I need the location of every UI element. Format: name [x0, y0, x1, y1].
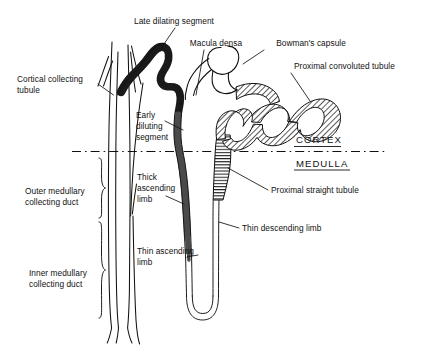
nephron-diagram: Late dilating segment Macula densa Bowma… — [0, 0, 429, 346]
label-outer-medullary-collecting-duct-line1: Outer medullary — [25, 186, 86, 196]
label-bowmans-capsule: Bowman's capsule — [276, 38, 346, 48]
label-proximal-straight-tubule: Proximal straight tubule — [271, 185, 359, 195]
label-thin-descending-limb: Thin descending limb — [242, 223, 322, 233]
macula-densa-point — [180, 103, 182, 105]
label-thick-ascending-limb-line1: Thick — [137, 172, 158, 182]
label-macula-densa: Macula densa — [190, 38, 243, 48]
label-cortical-collecting-tubule-line1: Cortical collecting — [17, 74, 83, 84]
label-thick-ascending-limb-line3: limb — [137, 194, 153, 204]
label-inner-medullary-collecting-duct-line2: collecting duct — [29, 279, 83, 289]
label-early-diluting-segment-line2: diluting — [136, 121, 163, 131]
thin-descending-limb-outer-wall — [219, 200, 220, 296]
label-medulla: MEDULLA — [296, 158, 348, 169]
nephron-illustration: Late dilating segment Macula densa Bowma… — [0, 0, 429, 346]
label-thin-ascending-limb-line2: limb — [137, 257, 153, 267]
label-early-diluting-segment-line1: Early — [136, 110, 156, 120]
label-outer-medullary-collecting-duct-line2: collecting duct — [25, 197, 79, 207]
label-inner-medullary-collecting-duct-line1: Inner medullary — [29, 268, 88, 278]
label-early-diluting-segment-line3: segment — [136, 132, 169, 142]
label-cortical-collecting-tubule-line2: tubule — [17, 85, 40, 95]
label-thick-ascending-limb-line2: ascending — [137, 183, 176, 193]
label-cortex: CORTEX — [296, 134, 342, 145]
label-late-dilating-segment: Late dilating segment — [134, 16, 215, 26]
macula-densa-marker — [180, 103, 182, 105]
label-proximal-convoluted-tubule: Proximal convoluted tubule — [294, 61, 395, 71]
label-thin-ascending-limb-line1: Thin ascending — [137, 246, 194, 256]
